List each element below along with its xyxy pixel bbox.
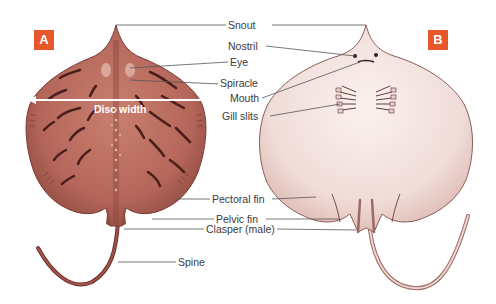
label-spiracle: Spiracle bbox=[218, 77, 260, 89]
stingray-anatomy-diagram: A B Disc width Snout Nostril Eye Spiracl… bbox=[0, 0, 496, 304]
label-eye: Eye bbox=[228, 56, 250, 68]
panel-b-badge: B bbox=[428, 30, 448, 50]
label-snout: Snout bbox=[226, 19, 257, 31]
label-gill-slits: Gill slits bbox=[220, 110, 260, 122]
dorsal-ray bbox=[26, 25, 206, 284]
label-clasper: Clasper (male) bbox=[204, 223, 277, 235]
disc-width-label: Disc width bbox=[94, 103, 147, 115]
ventral-ray bbox=[260, 25, 473, 288]
label-nostril: Nostril bbox=[226, 40, 260, 52]
label-pectoral-fin: Pectoral fin bbox=[210, 193, 267, 205]
label-mouth: Mouth bbox=[228, 92, 261, 104]
label-spine: Spine bbox=[176, 256, 207, 268]
panel-a-badge: A bbox=[34, 30, 54, 50]
